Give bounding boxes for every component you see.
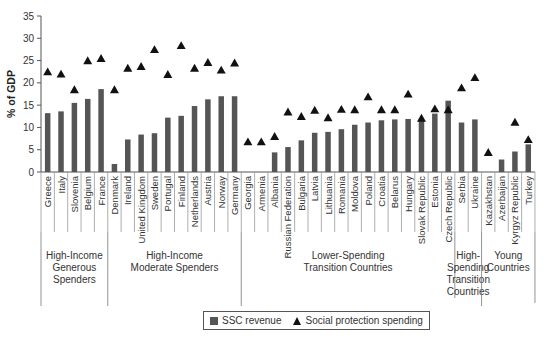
category-label: Lithuania	[323, 175, 334, 214]
ssc-bar	[232, 96, 238, 172]
triangle-marker-icon	[97, 54, 106, 62]
ssc-bar	[165, 118, 171, 172]
ssc-bar	[72, 103, 78, 172]
triangle-marker-icon	[257, 137, 266, 145]
category-label: Hungary	[403, 176, 414, 212]
triangle-marker-icon	[217, 66, 226, 74]
category-label: Portugal	[162, 176, 173, 211]
group-label: Spending	[447, 262, 489, 273]
category-label: Ireland	[122, 176, 133, 205]
category-label: Italy	[56, 176, 67, 194]
triangle-marker-icon	[83, 56, 92, 64]
triangle-marker-icon	[110, 85, 119, 93]
category-label: Belgium	[82, 176, 93, 210]
bar-swatch-icon	[210, 317, 218, 325]
ssc-bar	[138, 135, 144, 172]
ssc-bar	[85, 99, 91, 172]
triangle-marker-icon	[203, 58, 212, 66]
y-axis: 05101520253035	[23, 11, 41, 178]
ssc-bar	[205, 99, 211, 172]
ssc-bar	[112, 164, 118, 172]
triangle-marker-icon	[390, 105, 399, 113]
triangle-marker-icon	[190, 64, 199, 72]
ssc-bar	[352, 125, 358, 172]
triangle-swatch-icon	[293, 317, 301, 325]
triangle-marker-icon	[43, 67, 52, 75]
group-label: Young	[494, 250, 522, 261]
category-label: Albania	[269, 175, 280, 207]
ssc-bar	[58, 111, 64, 172]
triangle-marker-icon	[283, 108, 292, 116]
ssc-bar	[45, 113, 51, 172]
triangle-marker-icon	[364, 92, 373, 100]
ssc-bar	[459, 123, 465, 172]
x-axis: GreeceItalySloveniaBelgiumFranceDenmarkI…	[41, 172, 535, 258]
svg-text:30: 30	[23, 33, 35, 44]
triangle-marker-icon	[417, 114, 426, 122]
group-label: Countries	[447, 286, 490, 297]
triangle-marker-icon	[70, 85, 79, 93]
ssc-bar	[472, 119, 478, 172]
category-label: Serbia	[456, 175, 467, 203]
triangle-marker-icon	[243, 137, 252, 145]
triangle-marker-icon	[510, 118, 519, 126]
group-label: Transition	[446, 274, 490, 285]
category-label: Belarus	[389, 176, 400, 208]
triangle-marker-icon	[337, 105, 346, 113]
triangle-marker-icon	[270, 132, 279, 140]
ssc-bar	[392, 119, 398, 172]
group-label: Countries	[487, 262, 530, 273]
category-label: Netherlands	[189, 176, 200, 227]
svg-text:0: 0	[28, 167, 34, 178]
triangle-marker-icon	[177, 41, 186, 49]
category-label: Finland	[176, 176, 187, 207]
ssc-bar	[192, 106, 198, 172]
category-label: Estonia	[429, 175, 440, 207]
group-label: Spenders	[53, 274, 96, 285]
triangle-marker-icon	[137, 62, 146, 70]
triangle-marker-icon	[377, 105, 386, 113]
triangle-marker-icon	[457, 83, 466, 91]
triangle-marker-icon	[484, 148, 493, 156]
ssc-bar	[272, 152, 278, 172]
category-label: Denmark	[109, 176, 120, 215]
svg-text:35: 35	[23, 11, 35, 22]
group-label: High-	[456, 250, 480, 261]
svg-text:15: 15	[23, 100, 35, 111]
group-label: Moderate Spenders	[131, 262, 219, 273]
category-label: Turkey	[523, 176, 534, 205]
category-label: Azerbaijan	[496, 176, 507, 221]
category-label: Croatia	[376, 175, 387, 206]
ssc-bar	[218, 96, 224, 172]
category-label: Georgia	[242, 175, 253, 210]
ssc-bar	[365, 123, 371, 172]
ssc-bar	[325, 132, 331, 172]
ssc-bar	[499, 160, 505, 172]
triangle-marker-icon	[470, 73, 479, 81]
svg-text:20: 20	[23, 77, 35, 88]
category-label: Czech Republic	[443, 176, 454, 243]
chart-legend: SSC revenue Social protection spending	[203, 311, 430, 330]
ssc-bar	[419, 120, 425, 172]
category-label: Armenia	[256, 175, 267, 211]
legend-marker-label: Social protection spending	[305, 315, 422, 326]
ssc-revenue-bars	[45, 89, 531, 172]
category-label: Russian Federation	[282, 176, 293, 258]
triangle-marker-icon	[150, 45, 159, 53]
ssc-bar	[312, 133, 318, 172]
category-label: Slovak Republic	[416, 176, 427, 244]
category-label: Romania	[336, 175, 347, 214]
triangle-marker-icon	[230, 59, 239, 67]
triangle-marker-icon	[297, 112, 306, 120]
category-label: Ukraine	[469, 176, 480, 209]
ssc-bar	[432, 114, 438, 172]
category-label: Kyrgyz Republic	[509, 176, 520, 245]
triangle-marker-icon	[350, 105, 359, 113]
group-label: Generous	[52, 262, 96, 273]
y-axis-label: % of GDP	[5, 70, 17, 118]
triangle-marker-icon	[444, 105, 453, 113]
group-label: High-Income	[146, 250, 203, 261]
triangle-marker-icon	[404, 90, 413, 98]
triangle-marker-icon	[524, 135, 533, 143]
category-label: United Kingdom	[136, 176, 147, 244]
